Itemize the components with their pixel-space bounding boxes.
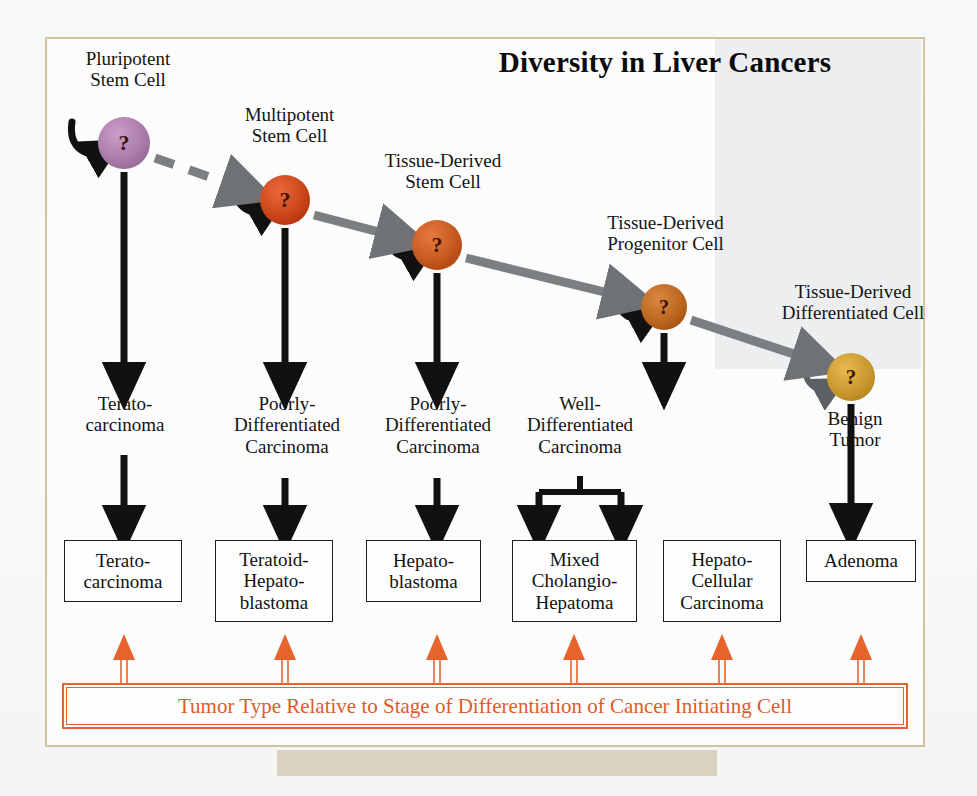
tumor-box-mixed-cholangio-hepatoma: Mixed Cholangio- Hepatoma: [512, 540, 637, 622]
cell-glyph: ?: [119, 130, 130, 156]
tumor-type-poorly-differentiated-carcinoma-1: Poorly- Differentiated Carcinoma: [207, 393, 367, 457]
tumor-box-hepatoblastoma: Hepato- blastoma: [366, 540, 481, 602]
lineage-arrow-4: [691, 320, 818, 362]
cell-glyph: ?: [280, 187, 291, 213]
lineage-arrow-dashed: [155, 158, 247, 190]
cell-label-pluripotent-stem-cell: Pluripotent Stem Cell: [63, 48, 193, 91]
self-renewal-loops: [71, 122, 647, 319]
cell-glyph: ?: [432, 232, 443, 258]
cell-pluripotent-stem-cell: ?: [98, 117, 150, 169]
summary-banner: Tumor Type Relative to Stage of Differen…: [62, 683, 908, 729]
banner-arrow-1: [113, 634, 135, 683]
tumor-box-teratoid-hepatoblastoma: Teratoid- Hepato- blastoma: [215, 540, 333, 622]
cell-tissue-derived-progenitor-cell: ?: [641, 284, 687, 330]
cell-label-tissue-derived-differentiated-cell: Tissue-Derived Differentiated Cell: [758, 281, 948, 324]
cell-multipotent-stem-cell: ?: [260, 175, 310, 225]
cell-glyph: ?: [846, 365, 857, 390]
cell-tissue-derived-stem-cell: ?: [412, 220, 462, 270]
cell-label-tissue-derived-progenitor-cell: Tissue-Derived Progenitor Cell: [578, 212, 753, 255]
tumor-type-poorly-differentiated-carcinoma-2: Poorly- Differentiated Carcinoma: [358, 393, 518, 457]
cell-label-multipotent-stem-cell: Multipotent Stem Cell: [222, 104, 357, 147]
cell-glyph: ?: [659, 296, 669, 319]
tumor-box-teratocarcinoma: Terato- carcinoma: [64, 540, 182, 602]
banner-arrow-6: [850, 634, 872, 683]
summary-banner-text: Tumor Type Relative to Stage of Differen…: [178, 694, 792, 719]
banner-arrow-4: [563, 634, 585, 683]
tumor-type-benign-tumor: Benign Tumor: [800, 408, 910, 451]
page-title: Diversity in Liver Cancers: [445, 46, 885, 79]
type-to-box-arrows: [124, 455, 437, 527]
cell-label-tissue-derived-stem-cell: Tissue-Derived Stem Cell: [368, 150, 518, 193]
banner-arrow-5: [711, 634, 733, 683]
banner-arrow-3: [426, 634, 448, 683]
lineage-arrow-3: [466, 258, 629, 298]
bracket-split-arrows: [539, 492, 621, 527]
tumor-type-teratocarcinoma: Terato- carcinoma: [60, 393, 190, 436]
tumor-box-hepatocellular-carcinoma: Hepato- Cellular Carcinoma: [663, 540, 781, 622]
tumor-type-well-differentiated-carcinoma: Well- Differentiated Carcinoma: [500, 393, 660, 457]
banner-arrow-2: [274, 634, 296, 683]
tumor-box-adenoma: Adenoma: [806, 540, 916, 582]
banner-arrows: [113, 634, 872, 683]
bracket-split: [539, 476, 621, 492]
cell-tissue-derived-differentiated-cell: ?: [827, 353, 875, 401]
